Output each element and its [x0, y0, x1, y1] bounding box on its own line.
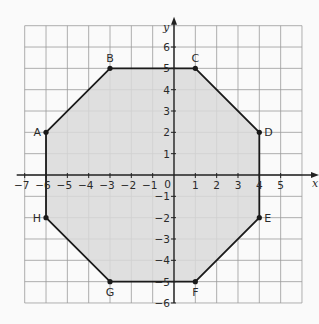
vertex-label-f: F	[192, 286, 198, 299]
x-tick-label: 2	[213, 179, 220, 191]
vertex-point-a	[43, 130, 48, 135]
y-axis-arrow-icon	[171, 17, 177, 25]
y-tick-label: 6	[163, 41, 170, 53]
y-tick-label: 3	[163, 105, 170, 117]
x-tick-label: 5	[277, 179, 284, 191]
vertex-label-c: C	[191, 52, 199, 65]
y-tick-label: −1	[155, 190, 170, 202]
vertex-point-b	[107, 66, 112, 71]
vertex-point-d	[257, 130, 262, 135]
origin-label: 0	[164, 178, 171, 190]
y-tick-label: −4	[155, 254, 171, 266]
y-tick-label: −3	[155, 233, 170, 245]
vertex-point-e	[257, 215, 262, 220]
y-axis-label: y	[162, 21, 170, 34]
vertex-label-e: E	[264, 212, 271, 225]
vertex-point-h	[43, 215, 48, 220]
y-tick-label: 4	[163, 84, 170, 96]
x-axis-label: x	[312, 177, 319, 190]
x-tick-label: −1	[142, 179, 157, 191]
y-tick-label: −2	[155, 212, 170, 224]
y-tick-label: −5	[155, 276, 170, 288]
coordinate-plane: xy −7−6−5−4−3−2−112345654321−1−2−3−4−5−6…	[0, 0, 319, 324]
x-tick-label: −4	[78, 179, 94, 191]
x-tick-label: −3	[99, 179, 114, 191]
vertex-point-f	[193, 279, 198, 284]
y-tick-label: 5	[163, 62, 170, 74]
y-tick-label: 1	[163, 148, 170, 160]
y-tick-label: −6	[155, 297, 171, 309]
x-tick-label: −7	[14, 179, 29, 191]
vertex-label-a: A	[33, 126, 41, 139]
vertex-label-b: B	[106, 52, 114, 65]
x-tick-label: −6	[35, 179, 51, 191]
vertex-point-g	[107, 279, 112, 284]
x-tick-label: 3	[235, 179, 242, 191]
vertex-point-c	[193, 66, 198, 71]
x-tick-label: −5	[57, 179, 72, 191]
vertex-label-h: H	[33, 212, 41, 225]
x-tick-label: 1	[192, 179, 199, 191]
x-tick-label: −2	[121, 179, 136, 191]
x-tick-label: 4	[256, 179, 263, 191]
vertex-label-d: D	[264, 126, 272, 139]
vertex-label-g: G	[106, 286, 115, 299]
y-tick-label: 2	[163, 126, 170, 138]
